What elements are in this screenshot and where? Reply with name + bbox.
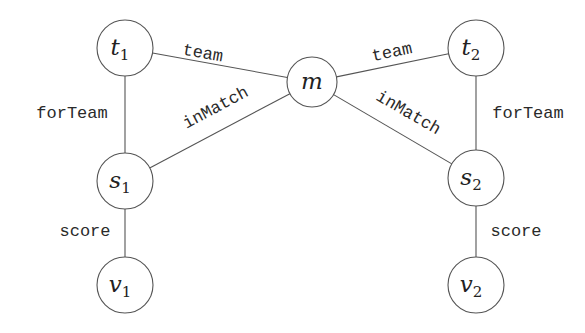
nodes-layer: t1mt2s1s2v1v2 [97,20,504,313]
node-s1: s1 [97,153,153,209]
edge-label-forteam: forTeam [492,104,563,123]
node-label: m [301,68,323,94]
node-m: m [287,57,337,107]
edge-label-team: team [181,41,224,67]
node-v2: v2 [448,257,504,313]
node-v1: v1 [97,257,153,313]
edge-label-inmatch: inMatch [180,83,252,133]
node-t1: t1 [97,20,153,76]
edge-label-score: score [490,222,541,241]
edge-label-score: score [59,222,110,241]
node-s2: s2 [448,150,504,206]
node-t2: t2 [448,20,504,76]
edge-label-forteam: forTeam [36,104,107,123]
edge-label-inmatch: inMatch [373,87,444,139]
graph-diagram: teaminMatchforTeamscoreteaminMatchforTea… [0,0,585,333]
